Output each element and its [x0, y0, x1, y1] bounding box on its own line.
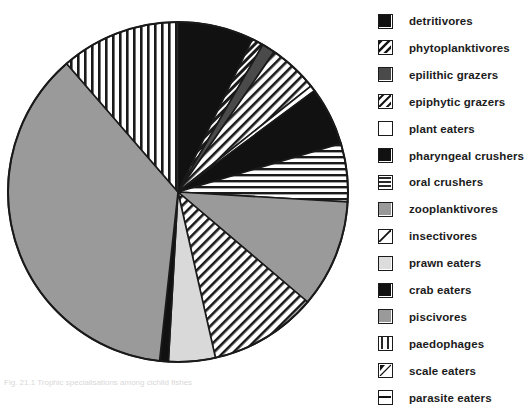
legend-item-label: prawn eaters — [409, 257, 481, 269]
figure-caption: Fig. 21.1 Trophic specialisations among … — [4, 378, 364, 389]
legend-item-label: plant eaters — [409, 123, 475, 135]
legend-item-zooplanktivores[interactable]: zooplanktivores — [372, 196, 498, 222]
legend-item-pharyngeal-crushers[interactable]: pharyngeal crushers — [372, 143, 524, 169]
swatch-vertical-lines-icon — [378, 336, 393, 351]
legend-item-label: insectivores — [409, 230, 477, 242]
swatch-solid-black-icon — [378, 14, 393, 29]
legend-item-insectivores[interactable]: insectivores — [372, 223, 477, 249]
legend-item-label: epiphytic grazers — [409, 96, 505, 108]
swatch-solid-gray-icon — [378, 202, 393, 217]
legend-item-plant-eaters[interactable]: plant eaters — [372, 116, 475, 142]
swatch-horizontal-split-icon — [378, 390, 393, 405]
legend-item-label: epilithic grazers — [409, 69, 498, 81]
swatch-solid-lightgray-icon — [378, 256, 393, 271]
swatch-solid-black-icon — [378, 283, 393, 298]
legend-item-label: oral crushers — [409, 176, 483, 188]
swatch-solid-white-icon — [378, 121, 393, 136]
swatch-solid-darkgray-icon — [378, 67, 393, 82]
legend-item-prawn-eaters[interactable]: prawn eaters — [372, 250, 481, 276]
legend-item-epiphytic-grazers[interactable]: epiphytic grazers — [372, 89, 505, 115]
legend-item-label: paedophages — [409, 338, 484, 350]
legend-item-paedophages[interactable]: paedophages — [372, 331, 484, 357]
legend-item-label: scale eaters — [409, 365, 476, 377]
legend-item-label: pharyngeal crushers — [409, 150, 524, 162]
swatch-solid-black-icon — [378, 148, 393, 163]
legend-item-label: zooplanktivores — [409, 203, 498, 215]
legend-item-label: detritivores — [409, 15, 473, 27]
swatch-diagonal-corner-icon — [378, 229, 393, 244]
legend-item-crab-eaters[interactable]: crab eaters — [372, 277, 471, 303]
swatch-diagonal-hatch-icon — [378, 94, 393, 109]
swatch-solid-gray-icon — [378, 309, 393, 324]
pie-chart-area — [0, 0, 370, 389]
legend-item-scale-eaters[interactable]: scale eaters — [372, 358, 476, 384]
legend-item-oral-crushers[interactable]: oral crushers — [372, 169, 483, 195]
legend-item-label: phytoplanktivores — [409, 42, 510, 54]
pie-chart — [0, 0, 370, 389]
legend-item-detritivores[interactable]: detritivores — [372, 8, 473, 34]
legend-item-label: piscivores — [409, 311, 467, 323]
chart-legend: detritivoresphytoplanktivoresepilithic g… — [372, 0, 520, 389]
legend-item-piscivores[interactable]: piscivores — [372, 304, 467, 330]
pie-slices — [8, 22, 348, 362]
swatch-diagonal-hatch-dark-icon — [378, 40, 393, 55]
swatch-diagonal-corner-mark-icon — [378, 363, 393, 378]
swatch-horizontal-lines-icon — [378, 175, 393, 190]
legend-item-label: parasite eaters — [409, 392, 492, 404]
legend-item-epilithic-grazers[interactable]: epilithic grazers — [372, 62, 498, 88]
legend-item-parasite-eaters[interactable]: parasite eaters — [372, 385, 492, 409]
legend-item-phytoplanktivores[interactable]: phytoplanktivores — [372, 35, 510, 61]
legend-item-label: crab eaters — [409, 284, 471, 296]
